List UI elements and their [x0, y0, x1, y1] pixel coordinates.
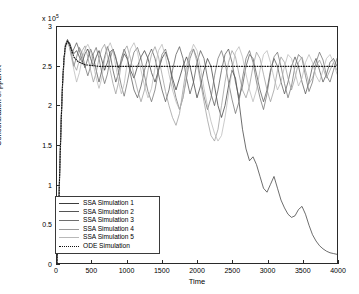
y-tick-label: 2.5 [26, 62, 52, 69]
legend: SSA Simulation 1SSA Simulation 2SSA Simu… [55, 196, 160, 254]
legend-item-label: SSA Simulation 4 [83, 225, 134, 234]
x-tick-mark [303, 260, 304, 264]
y-tick-mark [56, 66, 60, 67]
y-tick-mark [56, 26, 60, 27]
legend-line-swatch [59, 246, 79, 247]
y-tick-label: 2 [26, 102, 52, 109]
legend-item[interactable]: SSA Simulation 2 [59, 208, 156, 217]
y-tick-mark [56, 264, 60, 265]
x-tick-mark [338, 260, 339, 264]
x-tick-label: 0 [36, 267, 76, 274]
legend-item-label: SSA Simulation 1 [83, 199, 134, 208]
y-axis-exponent-label: x 105 [42, 13, 59, 22]
y-tick-label: 0.5 [26, 221, 52, 228]
x-tick-label: 4000 [318, 267, 358, 274]
y-axis-exponent-power: 5 [56, 13, 59, 19]
x-tick-label: 500 [71, 267, 111, 274]
y-axis-exponent-base: x 10 [42, 15, 56, 22]
figure-container: x 105 00.511.522.53 05001000150020002500… [0, 0, 359, 294]
y-tick-mark [56, 185, 60, 186]
legend-line-swatch [59, 237, 79, 238]
x-tick-label: 2000 [177, 267, 217, 274]
x-tick-mark [268, 260, 269, 264]
legend-item-label: ODE Simulation [83, 242, 130, 251]
legend-line-swatch [59, 220, 79, 221]
x-tick-label: 1500 [142, 267, 182, 274]
x-tick-mark [162, 260, 163, 264]
y-tick-label: 3 [26, 23, 52, 30]
x-axis-title: Time [189, 277, 205, 286]
x-tick-mark [232, 260, 233, 264]
legend-line-swatch [59, 203, 79, 204]
x-tick-mark [91, 260, 92, 264]
legend-item[interactable]: ODE Simulation [59, 242, 156, 251]
legend-line-swatch [59, 229, 79, 230]
legend-item[interactable]: SSA Simulation 4 [59, 225, 156, 234]
legend-line-swatch [59, 211, 79, 212]
x-tick-label: 2500 [212, 267, 252, 274]
legend-item-label: SSA Simulation 5 [83, 233, 134, 242]
x-tick-label: 3000 [248, 267, 288, 274]
y-tick-label: 1 [26, 181, 52, 188]
legend-item-label: SSA Simulation 2 [83, 208, 134, 217]
x-tick-mark [56, 260, 57, 264]
legend-item-label: SSA Simulation 3 [83, 216, 134, 225]
x-tick-mark [197, 260, 198, 264]
y-tick-label: 1.5 [26, 142, 52, 149]
x-tick-label: 1000 [107, 267, 147, 274]
x-tick-label: 3500 [283, 267, 323, 274]
y-tick-mark [56, 145, 60, 146]
y-tick-mark [56, 105, 60, 106]
y-axis-title: Concentration of ppERK [0, 65, 3, 146]
x-tick-mark [127, 260, 128, 264]
legend-item[interactable]: SSA Simulation 1 [59, 199, 156, 208]
legend-item[interactable]: SSA Simulation 3 [59, 216, 156, 225]
legend-item[interactable]: SSA Simulation 5 [59, 233, 156, 242]
